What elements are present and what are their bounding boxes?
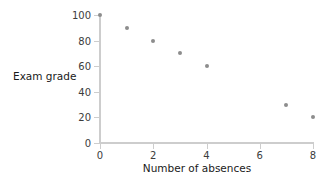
data-point [205, 64, 209, 68]
x-tick-mark [153, 144, 154, 149]
x-axis-title: Number of absences [0, 162, 334, 174]
y-tick-mark [94, 41, 99, 42]
y-tick-label: 20 [78, 112, 91, 123]
data-point [284, 103, 288, 107]
y-tick-mark [94, 66, 99, 67]
x-tick-mark [260, 144, 261, 149]
y-tick-label: 80 [78, 35, 91, 46]
plot-area [100, 15, 313, 143]
scatter-plot-figure: 020406080100 02468 Exam grade Number of … [0, 0, 334, 177]
y-tick-label: 0 [85, 138, 91, 149]
y-axis-title: Exam grade [13, 70, 76, 82]
x-tick-label: 6 [257, 150, 263, 161]
x-tick-mark [313, 144, 314, 149]
y-tick-mark [94, 92, 99, 93]
y-tick-label: 60 [78, 61, 91, 72]
x-tick-label: 8 [310, 150, 316, 161]
data-point [125, 26, 129, 30]
data-point [311, 115, 315, 119]
data-point [151, 39, 155, 43]
y-tick-label: 40 [78, 86, 91, 97]
y-tick-mark [94, 117, 99, 118]
x-tick-label: 4 [203, 150, 209, 161]
data-point [98, 13, 102, 17]
y-tick-mark [94, 143, 99, 144]
x-tick-label: 2 [150, 150, 156, 161]
x-tick-label: 0 [97, 150, 103, 161]
data-point [178, 51, 182, 55]
x-tick-mark [207, 144, 208, 149]
y-tick-label: 100 [72, 10, 91, 21]
x-tick-mark [100, 144, 101, 149]
